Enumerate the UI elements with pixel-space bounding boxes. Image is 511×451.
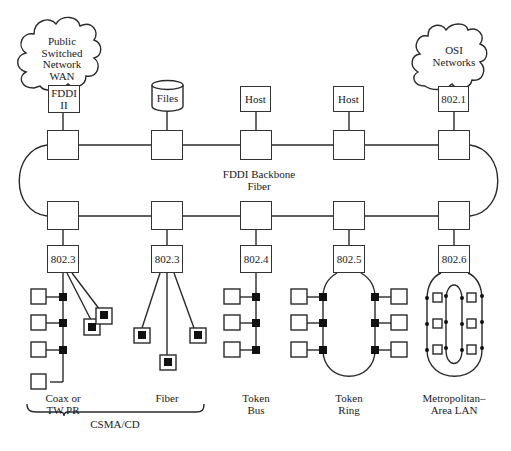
fddi-ii-gateway-box: FDDI II: [48, 85, 80, 113]
cloud-label-osi-networks: OSI Networks: [420, 44, 488, 68]
ring-node-bottom-2: [151, 201, 183, 230]
subnet-label-coax: Coax or TW PR: [28, 392, 98, 416]
subnet-box-802-6: 802.6: [438, 245, 470, 273]
osi-802-1-box: 802.1: [438, 86, 469, 112]
subnet-fiber-topology: [134, 273, 206, 370]
ring-node-top-5: [438, 130, 470, 160]
csma-cd-label: CSMA/CD: [80, 418, 150, 430]
host-box-2: Host: [333, 86, 364, 112]
subnet-box-802-4: 802.4: [240, 245, 272, 273]
subnet-box-802-3-coax: 802.3: [47, 245, 79, 273]
host-box-1: Host: [240, 86, 271, 112]
subnet-label-man: Metropolitan– Area LAN: [414, 392, 494, 416]
ring-node-top-4: [333, 130, 365, 160]
ring-node-bottom-4: [333, 201, 365, 230]
ring-node-top-1: [47, 130, 79, 160]
subnet-coax-topology: [31, 273, 112, 389]
ring-node-top-3: [240, 130, 272, 160]
subnet-label-token-bus: Token Bus: [229, 392, 283, 416]
ring-node-bottom-5: [438, 201, 470, 230]
subnet-token-ring-topology: [291, 273, 407, 376]
ring-node-bottom-1: [47, 201, 79, 230]
ring-node-bottom-3: [240, 201, 272, 230]
subnet-man-dual-bus-topology: [427, 273, 482, 376]
subnet-label-token-ring: Token Ring: [322, 392, 376, 416]
subnet-token-bus-topology: [224, 273, 256, 357]
backbone-label: FDDI Backbone Fiber: [211, 168, 307, 192]
subnet-label-fiber: Fiber: [140, 392, 194, 404]
backbone-left-arc: [19, 145, 47, 216]
subnet-box-802-3-fiber: 802.3: [151, 245, 183, 273]
cloud-label-public-switched-wan: Public Switched Network WAN: [28, 36, 96, 82]
backbone-right-arc: [470, 145, 498, 216]
ring-node-top-2: [151, 130, 183, 160]
files-label: Files: [152, 92, 183, 104]
subnet-box-802-5: 802.5: [333, 245, 365, 273]
